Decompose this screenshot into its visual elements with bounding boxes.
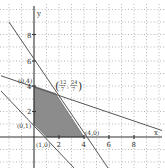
vertex-label-intersection: ( 12 7 , 24 7 )	[55, 79, 82, 93]
tick-y-2: 2	[27, 108, 31, 116]
svg-text:12: 12	[60, 79, 66, 85]
svg-text:7: 7	[61, 86, 64, 92]
x-axis-label: x	[154, 129, 158, 137]
svg-text:24: 24	[71, 79, 77, 85]
tick-x-8: 8	[132, 141, 136, 149]
tick-x-6: 6	[107, 141, 112, 149]
linear-programming-graph: y x 2 4 6 8 2 4 6 8 (0,4) (0,1) (1,0) (4…	[0, 0, 165, 168]
tick-y-6: 6	[27, 58, 32, 66]
tick-y-4: 4	[27, 83, 32, 91]
vertex-label-0-1: (0,1)	[17, 122, 31, 129]
svg-text:): )	[78, 80, 82, 93]
tick-x-4: 4	[82, 141, 87, 149]
svg-text:7: 7	[72, 86, 75, 92]
vertex-label-0-4: (0,4)	[18, 77, 32, 84]
vertex-label-4-0: (4,0)	[85, 129, 99, 136]
y-axis-label: y	[36, 10, 41, 18]
tick-y-8: 8	[27, 32, 31, 40]
svg-text:,: ,	[67, 82, 69, 89]
vertex-label-1-0: (1,0)	[36, 141, 50, 148]
svg-text:(: (	[55, 80, 59, 93]
tick-x-2: 2	[57, 141, 61, 149]
